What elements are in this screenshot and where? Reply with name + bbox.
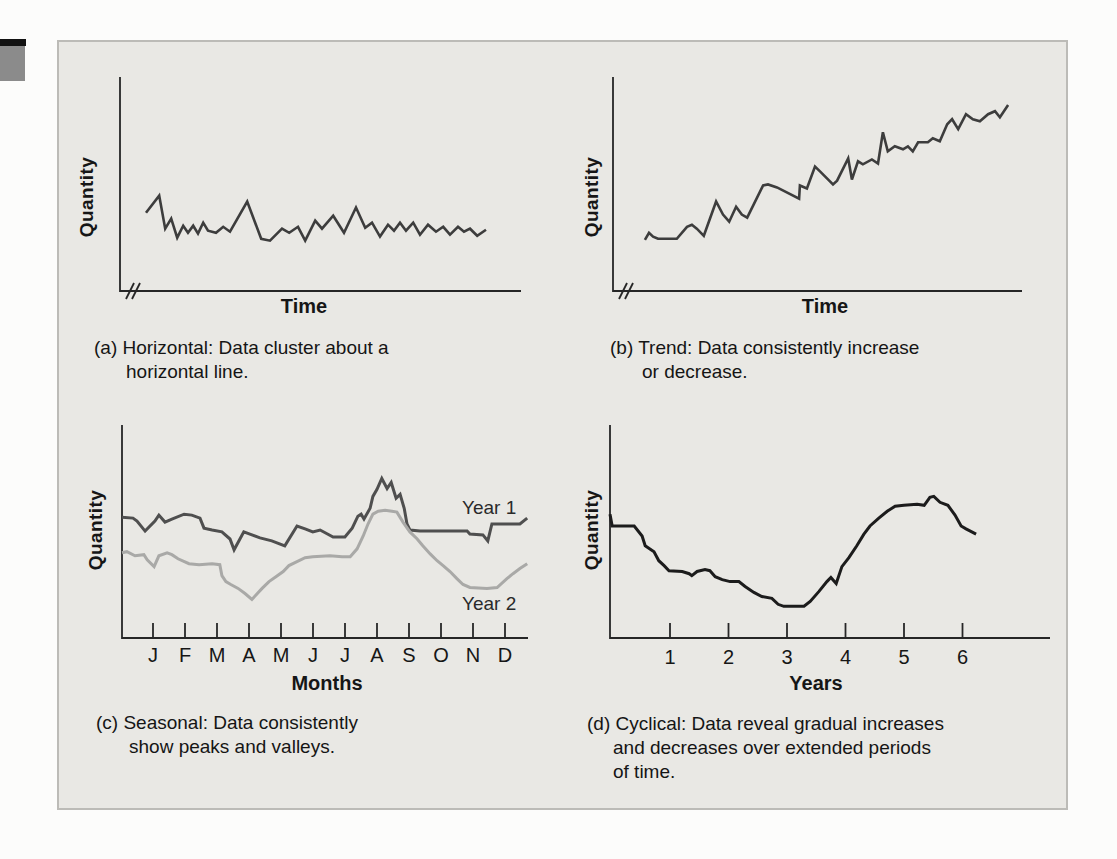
x-tick-label-F: F	[179, 644, 191, 666]
caption-b: (b) Trend: Data consistently increaseor …	[610, 336, 1050, 384]
series-line-demand	[610, 496, 976, 606]
chart-d-x-axis-label: Years	[746, 672, 886, 695]
caption-b-line-2: or decrease.	[610, 360, 1050, 384]
caption-d: (d) Cyclical: Data reveal gradual increa…	[587, 712, 1062, 784]
chart-b-trend-plot	[605, 70, 1035, 310]
x-tick-label-2: 2	[723, 646, 734, 668]
chart-b-y-axis-label: Quantity	[581, 132, 603, 262]
caption-c-line-1: (c) Seasonal: Data consistently	[96, 711, 536, 735]
x-tick-label-J: J	[148, 644, 158, 666]
page-edge-tab	[0, 46, 25, 81]
caption-d-line-2: and decreases over extended periods	[587, 736, 1062, 760]
caption-d-line-1: (d) Cyclical: Data reveal gradual increa…	[587, 712, 1062, 736]
caption-a-line-2: horizontal line.	[94, 360, 534, 384]
chart-a-horizontal-plot	[100, 70, 532, 310]
page-edge-tab-bar	[0, 39, 26, 46]
x-tick-label-A: A	[242, 644, 256, 666]
chart-c-seasonal-plot: JFMAMJJASOND	[110, 415, 542, 670]
caption-a-line-1: (a) Horizontal: Data cluster about a	[94, 336, 534, 360]
x-tick-label-J: J	[308, 644, 318, 666]
book-page: JFMAMJJASOND 123456 Quantity Quantity Qu…	[0, 0, 1117, 859]
x-tick-label-D: D	[498, 644, 512, 666]
x-tick-label-M: M	[209, 644, 226, 666]
caption-a: (a) Horizontal: Data cluster about ahori…	[94, 336, 534, 384]
chart-a-axes	[120, 77, 521, 291]
chart-d-cyclical-plot: 123456	[600, 415, 1062, 670]
x-tick-label-5: 5	[898, 646, 909, 668]
chart-d-axes	[610, 425, 1050, 638]
chart-b-axes	[613, 77, 1022, 291]
x-tick-label-1: 1	[664, 646, 675, 668]
caption-d-line-3: of time.	[587, 760, 1062, 784]
chart-a-x-axis-label: Time	[234, 295, 374, 318]
x-tick-label-M: M	[273, 644, 290, 666]
x-tick-label-S: S	[402, 644, 415, 666]
chart-a-y-axis-label: Quantity	[76, 132, 98, 262]
x-tick-label-A: A	[370, 644, 384, 666]
x-tick-label-N: N	[466, 644, 480, 666]
chart-d-y-axis-label: Quantity	[581, 465, 603, 595]
caption-c-line-2: show peaks and valleys.	[96, 735, 536, 759]
x-tick-label-4: 4	[840, 646, 851, 668]
x-tick-label-3: 3	[781, 646, 792, 668]
series-line-year-2	[122, 510, 527, 599]
year-2-series-label: Year 2	[462, 593, 516, 615]
x-tick-label-6: 6	[957, 646, 968, 668]
chart-c-x-axis-label: Months	[257, 672, 397, 695]
series-line-demand	[645, 105, 1008, 240]
caption-c: (c) Seasonal: Data consistentlyshow peak…	[96, 711, 536, 759]
chart-c-y-axis-label: Quantity	[85, 465, 107, 595]
x-tick-label-O: O	[433, 644, 449, 666]
year-1-series-label: Year 1	[462, 497, 516, 519]
series-line-demand	[146, 196, 486, 241]
chart-b-x-axis-label: Time	[755, 295, 895, 318]
x-tick-label-J: J	[340, 644, 350, 666]
caption-b-line-1: (b) Trend: Data consistently increase	[610, 336, 1050, 360]
